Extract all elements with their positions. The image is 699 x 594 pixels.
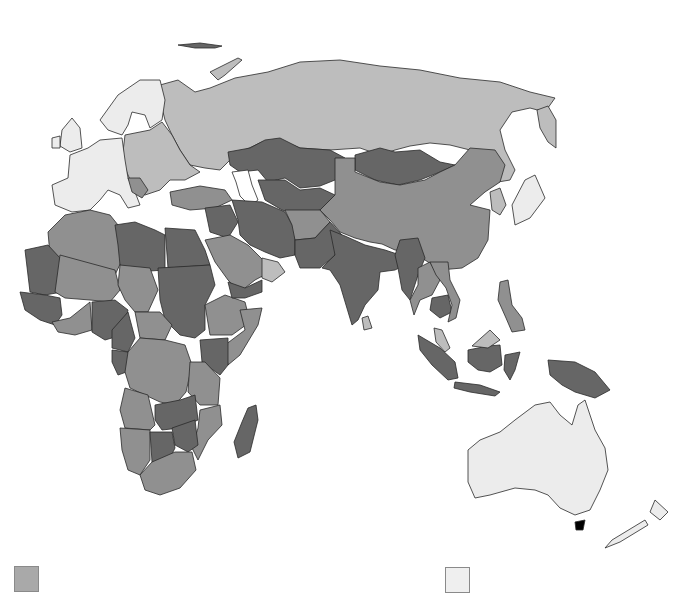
region-sulawesi	[504, 352, 520, 380]
region-korea	[490, 188, 506, 215]
novaya-zemlya	[210, 58, 242, 80]
region-sri-lanka	[362, 316, 372, 330]
map-canvas	[0, 0, 699, 594]
region-chad[interactable]	[118, 265, 158, 312]
region-java	[454, 382, 500, 396]
region-australia[interactable]	[468, 400, 608, 515]
region-ireland	[52, 136, 60, 148]
region-madagascar[interactable]	[234, 405, 258, 458]
region-iraq[interactable]	[205, 205, 238, 238]
region-new-zealand[interactable]	[605, 500, 668, 548]
region-libya[interactable]	[115, 222, 165, 272]
arctic-islands	[178, 43, 222, 48]
region-philippines[interactable]	[498, 280, 525, 332]
legend-swatch-light	[445, 567, 470, 593]
region-west-coast[interactable]	[20, 292, 62, 325]
region-tasmania	[575, 520, 585, 530]
region-papua[interactable]	[548, 360, 610, 398]
region-namibia[interactable]	[120, 428, 150, 475]
region-egypt[interactable]	[165, 228, 210, 268]
region-japan[interactable]	[512, 175, 545, 225]
region-oman[interactable]	[262, 258, 285, 282]
region-uk[interactable]	[60, 118, 82, 152]
legend-swatch-medium	[14, 566, 39, 592]
region-kamchatka	[537, 106, 556, 148]
region-borneo[interactable]	[468, 345, 502, 372]
region-cambodia[interactable]	[430, 295, 452, 318]
